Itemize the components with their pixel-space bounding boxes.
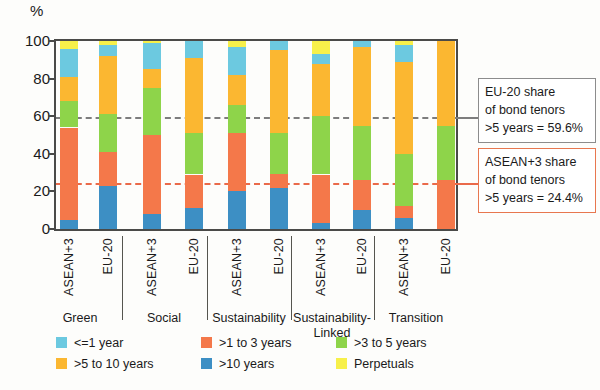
bar-segment <box>60 220 78 229</box>
bar-segment <box>60 41 78 49</box>
bar-segment <box>395 62 413 154</box>
bar-segment <box>437 41 455 126</box>
x-axis-region-label: EU-20 <box>439 238 453 274</box>
legend-item[interactable]: >1 to 3 years <box>201 336 292 350</box>
y-axis-tick-label: 80 <box>4 71 50 86</box>
bar-column[interactable] <box>99 41 117 229</box>
bar-column[interactable] <box>60 41 78 229</box>
y-axis-tick-label: 100 <box>4 33 50 48</box>
bar-segment <box>395 45 413 62</box>
x-axis-separator <box>374 236 375 320</box>
bar-column[interactable] <box>228 41 246 229</box>
x-axis-region-label: EU-20 <box>101 238 115 274</box>
legend-label: <=1 year <box>74 336 123 350</box>
x-axis-region-label: ASEAN+3 <box>397 238 411 296</box>
bar-column[interactable] <box>185 41 203 229</box>
bar-segment <box>143 214 161 229</box>
legend-item[interactable]: >3 to 5 years <box>336 336 427 350</box>
bar-segment <box>228 105 246 133</box>
bar-segment <box>437 126 455 181</box>
callout-eu20-line1: EU-20 share <box>485 83 590 101</box>
callout-asean3-line2: of bond tenors <box>485 171 590 189</box>
bar-segment <box>185 58 203 133</box>
y-axis-tick <box>48 115 55 117</box>
bar-segment <box>143 88 161 135</box>
bar-segment <box>60 128 78 220</box>
bar-segment <box>270 50 288 133</box>
bar-column[interactable] <box>143 41 161 229</box>
y-axis-tick-label: 20 <box>4 183 50 198</box>
bar-segment <box>99 45 117 56</box>
y-axis-tick <box>48 40 55 42</box>
bar-segment <box>185 208 203 229</box>
bar-segment <box>312 175 330 224</box>
legend-item[interactable]: >5 to 10 years <box>56 357 154 371</box>
x-axis-region-label: ASEAN+3 <box>62 238 76 296</box>
bar-segment <box>60 49 78 77</box>
y-axis-labels: 100806040200 <box>0 0 50 390</box>
bar-column[interactable] <box>270 41 288 229</box>
x-axis-separator <box>291 236 292 320</box>
legend-item[interactable]: Perpetuals <box>336 357 414 371</box>
bar-segment <box>143 41 161 43</box>
bar-column[interactable] <box>312 41 330 229</box>
bar-segment <box>270 174 288 187</box>
bar-segment <box>185 41 203 58</box>
bar-segment <box>312 41 330 54</box>
legend-swatch <box>201 337 212 348</box>
bar-segment <box>60 77 78 101</box>
callout-connector-eu20 <box>458 117 478 119</box>
bar-column[interactable] <box>437 41 455 229</box>
bar-segment <box>60 101 78 127</box>
x-axis-line <box>54 229 458 231</box>
bar-segment <box>143 43 161 69</box>
bar-segment <box>99 41 117 45</box>
y-axis-tick-label: 0 <box>4 221 50 236</box>
legend-swatch <box>336 337 347 348</box>
callout-eu20-line2: of bond tenors <box>485 101 590 119</box>
legend-swatch <box>201 358 212 369</box>
bar-segment <box>312 54 330 63</box>
bar-segment <box>353 47 371 126</box>
bar-column[interactable] <box>395 41 413 229</box>
bar-segment <box>395 218 413 229</box>
legend-label: >3 to 5 years <box>354 336 427 350</box>
x-axis-separator <box>207 236 208 320</box>
bar-segment <box>353 210 371 229</box>
bar-segment <box>185 133 203 174</box>
bar-segment <box>312 116 330 174</box>
bar-segment <box>228 47 246 75</box>
legend-item[interactable]: >10 years <box>201 357 274 371</box>
y-axis-tick <box>48 228 55 230</box>
bar-segment <box>437 180 455 229</box>
bar-segment <box>270 188 288 229</box>
legend-swatch <box>336 358 347 369</box>
callout-eu20: EU-20 share of bond tenors >5 years = 59… <box>478 78 596 143</box>
y-axis-tick <box>48 190 55 192</box>
bar-column[interactable] <box>353 41 371 229</box>
bar-segment <box>143 69 161 88</box>
legend-label: Perpetuals <box>354 357 414 371</box>
bar-segment <box>312 64 330 117</box>
legend-swatch <box>56 337 67 348</box>
bar-segment <box>270 41 288 50</box>
x-axis-region-label: EU-20 <box>187 238 201 274</box>
bar-segment <box>185 175 203 209</box>
bar-segment <box>270 133 288 174</box>
legend-label: >1 to 3 years <box>219 336 292 350</box>
x-axis-region-label: ASEAN+3 <box>145 238 159 296</box>
callout-asean3-line3: >5 years = 24.4% <box>485 189 590 207</box>
y-axis-tick-label: 60 <box>4 108 50 123</box>
bar-segment <box>99 152 117 186</box>
bar-segment <box>353 41 371 47</box>
bar-segment <box>353 180 371 210</box>
y-axis-tick <box>48 153 55 155</box>
bar-segment <box>99 114 117 152</box>
legend-item[interactable]: <=1 year <box>56 336 123 350</box>
bar-segment <box>228 191 246 229</box>
bar-segment <box>228 41 246 47</box>
bar-segment <box>395 154 413 207</box>
y-axis-tick <box>48 78 55 80</box>
x-axis-region-label: EU-20 <box>272 238 286 274</box>
legend-label: >5 to 10 years <box>74 357 154 371</box>
